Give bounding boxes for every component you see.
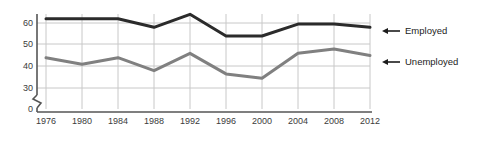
x-tick-1996: 1996 bbox=[216, 116, 236, 126]
grid-horizontal bbox=[37, 23, 370, 88]
chart-canvas: 60 50 40 30 0 1976 1980 1984 1988 1992 1… bbox=[0, 0, 477, 146]
y-tick-60: 60 bbox=[23, 18, 33, 28]
legend-label-unemployed: Unemployed bbox=[405, 56, 458, 67]
y-tick-40: 40 bbox=[23, 61, 33, 71]
x-tick-1992: 1992 bbox=[180, 116, 200, 126]
x-tick-2008: 2008 bbox=[324, 116, 344, 126]
legend-label-employed: Employed bbox=[405, 25, 447, 36]
x-tick-1984: 1984 bbox=[108, 116, 128, 126]
x-tick-1988: 1988 bbox=[144, 116, 164, 126]
legend-item-employed: Employed bbox=[382, 25, 447, 36]
series-line-employed bbox=[46, 14, 370, 36]
y-tick-50: 50 bbox=[23, 39, 33, 49]
axis-break-marker bbox=[33, 95, 41, 108]
legend-item-unemployed: Unemployed bbox=[382, 56, 458, 67]
y-tick-30: 30 bbox=[23, 83, 33, 93]
x-tick-1976: 1976 bbox=[36, 116, 56, 126]
y-tick-labels: 60 50 40 30 0 bbox=[23, 18, 33, 114]
x-tick-2012: 2012 bbox=[360, 116, 380, 126]
x-tick-1980: 1980 bbox=[72, 116, 92, 126]
series-line-unemployed bbox=[46, 49, 370, 78]
x-tick-2004: 2004 bbox=[288, 116, 308, 126]
x-tick-labels: 1976 1980 1984 1988 1992 1996 2000 2004 … bbox=[36, 116, 380, 126]
x-tick-2000: 2000 bbox=[252, 116, 272, 126]
y-tick-0: 0 bbox=[28, 104, 33, 114]
left-arrow-icon bbox=[382, 28, 400, 34]
left-arrow-icon bbox=[382, 59, 400, 65]
line-chart-figure: 60 50 40 30 0 1976 1980 1984 1988 1992 1… bbox=[0, 0, 477, 146]
y-axis bbox=[33, 14, 41, 112]
